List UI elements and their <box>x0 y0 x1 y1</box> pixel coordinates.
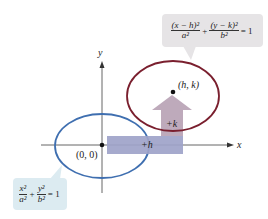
shifted-term2: (y − k)² b² <box>209 21 238 41</box>
standard-equation-callout: x² a² + y² b² = 1 <box>13 178 67 210</box>
horizontal-shift-label: +h <box>141 140 153 150</box>
shifted-equation-callout: (x − h)² a² + (y − k)² b² = 1 <box>162 14 263 47</box>
ellipse-translation-diagram: x y (0, 0) (h, k) +h +k (x − h)² a² + (y… <box>0 0 268 219</box>
standard-term2: y² b² <box>37 184 46 204</box>
standard-term1: x² a² <box>18 184 27 204</box>
x-axis-label: x <box>237 140 241 150</box>
y-axis-arrowhead <box>100 61 105 68</box>
origin-point <box>100 143 105 148</box>
center-point <box>171 90 176 95</box>
y-axis-label: y <box>98 48 102 58</box>
shifted-term1: (x − h)² a² <box>171 21 201 41</box>
origin-label: (0, 0) <box>76 150 98 160</box>
vertical-shift-label: +k <box>166 119 177 129</box>
bottom-callout-pointer <box>50 165 62 179</box>
x-axis-arrowhead <box>227 143 234 148</box>
top-callout-pointer <box>183 46 196 60</box>
center-label: (h, k) <box>178 80 199 90</box>
